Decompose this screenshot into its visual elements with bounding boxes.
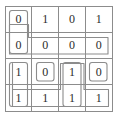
kmap-cell-r2c1[interactable]: 0 [5, 32, 32, 58]
kmap-cell-value: 1 [96, 92, 102, 104]
kmap-cell-value: 0 [96, 66, 102, 78]
kmap-value-layer: 0 1 0 1 0 0 0 0 1 0 1 [0, 0, 117, 116]
kmap-cell-value: 0 [69, 13, 75, 25]
kmap-cell-value: 0 [96, 39, 102, 51]
kmap-cell-value: 0 [15, 13, 21, 25]
kmap-cell-value: 0 [42, 66, 48, 78]
kmap-cell-r2c2[interactable]: 0 [32, 32, 59, 58]
kmap-cell-r3c4[interactable]: 0 [85, 59, 112, 85]
kmap-cell-r4c1[interactable]: 1 [5, 85, 32, 111]
kmap-cell-r1c2[interactable]: 1 [32, 6, 59, 32]
karnaugh-map-figure: 0 1 0 1 0 0 0 0 1 0 1 [0, 0, 117, 116]
kmap-cell-r2c3[interactable]: 0 [59, 32, 86, 58]
kmap-cell-r4c3[interactable]: 1 [59, 85, 86, 111]
kmap-cell-value: 1 [42, 13, 48, 25]
kmap-cell-r3c2[interactable]: 0 [32, 59, 59, 85]
kmap-cell-value: 1 [15, 66, 21, 78]
kmap-cell-r3c1[interactable]: 1 [5, 59, 32, 85]
kmap-cell-r1c4[interactable]: 1 [85, 6, 112, 32]
kmap-cell-r4c4[interactable]: 1 [85, 85, 112, 111]
kmap-cell-value: 0 [15, 39, 21, 51]
kmap-cell-value: 1 [96, 13, 102, 25]
kmap-cell-r1c3[interactable]: 0 [59, 6, 86, 32]
kmap-cell-r1c1[interactable]: 0 [5, 6, 32, 32]
kmap-cell-value: 1 [15, 92, 21, 104]
kmap-cell-r2c4[interactable]: 0 [85, 32, 112, 58]
kmap-cell-value: 1 [69, 92, 75, 104]
kmap-cell-r3c3[interactable]: 1 [59, 59, 86, 85]
kmap-cell-value: 1 [42, 92, 48, 104]
kmap-cell-value: 1 [69, 66, 75, 78]
kmap-cell-r4c2[interactable]: 1 [32, 85, 59, 111]
kmap-cell-value: 0 [42, 39, 48, 51]
kmap-cell-value: 0 [69, 39, 75, 51]
